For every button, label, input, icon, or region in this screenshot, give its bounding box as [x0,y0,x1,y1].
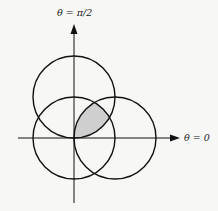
polar-diagram: θ = π/2 θ = 0 [0,0,218,211]
vertical-axis-arrowhead [71,24,78,34]
vertical-axis-label: θ = π/2 [57,7,92,18]
horizontal-axis-label: θ = 0 [184,132,210,143]
horizontal-axis-arrowhead [170,135,180,142]
